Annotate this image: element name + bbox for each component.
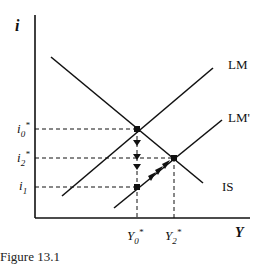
lm-prime-label: LM' xyxy=(228,111,250,124)
i0-star-label: i0* xyxy=(17,121,30,139)
downward-arrows xyxy=(133,140,141,170)
lm-label: LM xyxy=(228,58,248,71)
x-axis-label: Y xyxy=(235,226,244,240)
short-run-point xyxy=(134,184,140,190)
y-axis-label: i xyxy=(15,18,19,34)
i1-label: i1 xyxy=(19,179,27,196)
initial-equilibrium-point xyxy=(134,126,140,132)
lm-prime-curve xyxy=(114,120,222,208)
i2-star-label: i2* xyxy=(17,150,30,168)
y2-star-label: Y2* xyxy=(165,228,181,246)
adjustment-arrows xyxy=(148,160,170,181)
is-curve xyxy=(51,57,203,183)
y0-star-label: Y0* xyxy=(127,228,143,246)
is-label: IS xyxy=(222,180,234,193)
new-equilibrium-point xyxy=(171,155,177,161)
figure-caption: Figure 13.1 xyxy=(0,249,60,265)
